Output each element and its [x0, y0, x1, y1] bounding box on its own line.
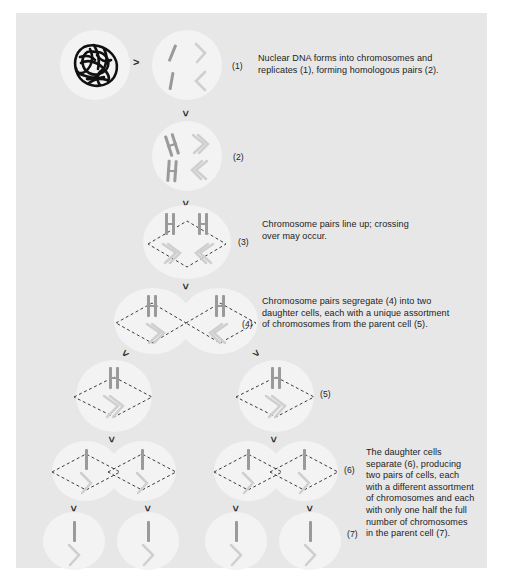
note-7-line-7: number of chromosomes: [366, 517, 494, 529]
chromosome-x-dark-3a: [163, 213, 177, 235]
marker-7: (7): [347, 529, 358, 539]
meiosis-diagram: > (1) Nuclear DNA forms into chromosomes…: [0, 0, 505, 587]
note-3: Chromosome pairs line up; crossing over …: [262, 219, 482, 242]
chromosome-x-dark-2: [164, 160, 180, 183]
note-7-line-6: with only one half the full: [366, 505, 494, 517]
note-3-line-1: Chromosome pairs line up; crossing: [262, 219, 482, 231]
arrow-to-stage-1: >: [133, 57, 139, 68]
chromatid-light-6b: [132, 470, 152, 496]
note-7-line-4: with a different assortment: [366, 482, 494, 494]
chromosome-light-2: [193, 70, 209, 92]
chromatid-dark-6a: [85, 449, 88, 470]
chromatid-dark-7a: [73, 521, 76, 542]
arrow-to-stage-7-a: >: [68, 505, 79, 511]
chromosome-x-light-4b: [208, 320, 230, 346]
chromosome-x-light-3b: [194, 240, 216, 266]
note-7-block: The daughter cells separate (6), produci…: [366, 447, 494, 540]
note-7-line-1: The daughter cells: [366, 447, 494, 459]
note-1-line-1: Nuclear DNA forms into chromosomes and: [258, 53, 488, 65]
marker-6: (6): [344, 465, 355, 475]
chromosome-x-dark-5b: [269, 367, 283, 389]
note-4-line-2: daughter cells, each with a unique assor…: [262, 308, 494, 320]
spindle-diamond-3: [144, 216, 230, 272]
chromatid-light-7a: [64, 542, 84, 568]
marker-2: (2): [233, 152, 244, 162]
chromosome-x-dark-5a: [107, 367, 121, 389]
chromosome-x-light-4a: [144, 320, 166, 346]
arrow-to-stage-4: >: [180, 283, 191, 289]
note-3-line-2: over may occur.: [262, 231, 482, 243]
chromosome-light-1: [193, 42, 209, 64]
cell-homologous-pairs: [152, 121, 222, 191]
note-7-line-3: two pairs of cells, each: [366, 470, 494, 482]
marker-5: (5): [320, 389, 331, 399]
chromosome-x-light-5a: [101, 392, 125, 420]
chromosome-x-light-2: [190, 158, 210, 182]
chromatid-light-7d: [300, 542, 320, 568]
chromosome-x-light-3a: [160, 240, 182, 266]
chromatid-dark-7b: [147, 521, 150, 542]
arrow-to-stage-7-c: >: [230, 505, 241, 511]
arrow-to-stage-6-right: >: [268, 436, 279, 442]
note-4: Chromosome pairs segregate (4) into two …: [262, 296, 494, 331]
chromatid-light-6a: [76, 470, 96, 496]
chromatid-light-7b: [138, 542, 158, 568]
arrow-to-stage-7-d: >: [304, 505, 315, 511]
arrow-to-stage-6-left: >: [106, 436, 117, 442]
marker-4: (4): [242, 319, 253, 329]
chromatid-light-6d: [294, 470, 314, 496]
note-4-line-3: of chromosomes from the parent cell (5).: [262, 319, 494, 331]
chromatid-dark-6b: [141, 449, 144, 470]
cell-condensed-chromosomes: [152, 30, 222, 100]
chromatid-dark-6d: [303, 449, 306, 470]
chromosome-x-dark-3b: [196, 213, 210, 235]
chromosome-x-dark-4a: [145, 295, 159, 317]
chromatid-light-7c: [226, 542, 246, 568]
chromosome-x-dark-4b: [213, 295, 227, 317]
note-4-line-1: Chromosome pairs segregate (4) into two: [262, 296, 494, 308]
arrow-to-stage-7-b: >: [142, 505, 153, 511]
chromatid-dark-6c: [247, 449, 250, 470]
marker-1: (1): [232, 61, 243, 71]
arrow-to-stage-2: >: [180, 110, 191, 116]
chromatid-dark-7c: [235, 521, 238, 542]
chromosome-x-light-5b: [263, 392, 287, 420]
tangled-dna-icon: [64, 33, 128, 97]
marker-3: (3): [238, 237, 249, 247]
note-7-line-8: in the parent cell (7).: [366, 528, 494, 540]
note-1: Nuclear DNA forms into chromosomes and r…: [258, 53, 488, 76]
note-7-line-2: separate (6), producing: [366, 459, 494, 471]
chromosome-x-light-1: [190, 132, 210, 156]
chromatid-light-6c: [238, 470, 258, 496]
chromatid-dark-7d: [309, 521, 312, 542]
note-7-line-5: of chromosomes and each: [366, 493, 494, 505]
note-1-line-2: replicates (1), forming homologous pairs…: [258, 65, 488, 77]
